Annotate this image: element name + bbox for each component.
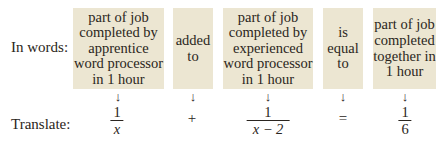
- phrase-text: added to: [176, 33, 211, 64]
- down-arrow-icon: ↓: [108, 90, 128, 103]
- translate-label: Translate:: [11, 116, 70, 133]
- phrase-text: part of job completed together in 1 hour: [373, 17, 435, 79]
- phrase-box-apprentice: part of job completed by apprentice word…: [73, 8, 164, 89]
- phrase-text: is equal to: [327, 25, 358, 72]
- fraction-one-over-six: 1 6: [398, 104, 411, 137]
- phrase-text: part of job completed by apprentice word…: [74, 10, 163, 88]
- down-arrow-icon: ↓: [183, 90, 203, 103]
- phrase-box-together: part of job completed together in 1 hour: [373, 8, 436, 89]
- phrase-box-experienced: part of job completed by experienced wor…: [223, 8, 313, 89]
- fraction-one-over-x-minus-2: 1 x − 2: [247, 104, 290, 137]
- phrase-box-added-to: added to: [173, 8, 213, 89]
- numerator: 1: [110, 104, 123, 120]
- fraction-one-over-x: 1 x: [110, 104, 123, 137]
- plus-operator: +: [188, 110, 196, 127]
- phrase-text: part of job completed by experienced wor…: [224, 10, 313, 88]
- phrase-box-is-equal-to: is equal to: [323, 8, 363, 89]
- numerator: 1: [398, 104, 411, 120]
- down-arrow-icon: ↓: [395, 90, 415, 103]
- in-words-label: In words:: [11, 39, 68, 56]
- down-arrow-icon: ↓: [333, 90, 353, 103]
- down-arrow-icon: ↓: [258, 90, 278, 103]
- equals-operator: =: [339, 110, 347, 127]
- denominator: 6: [398, 120, 411, 137]
- numerator: 1: [261, 104, 274, 120]
- denominator: x: [111, 120, 123, 137]
- denominator: x − 2: [247, 120, 290, 137]
